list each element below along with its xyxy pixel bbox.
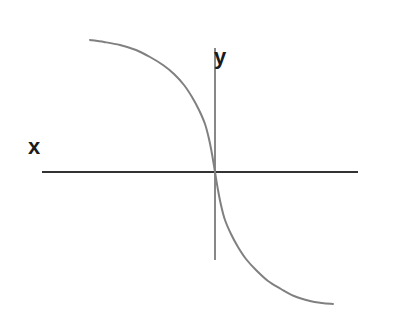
y-axis-label: y <box>214 46 226 68</box>
x-axis-label: x <box>28 136 40 158</box>
graph-figure: x y <box>0 0 401 316</box>
plot-canvas <box>0 0 401 316</box>
plot-background <box>0 0 401 316</box>
